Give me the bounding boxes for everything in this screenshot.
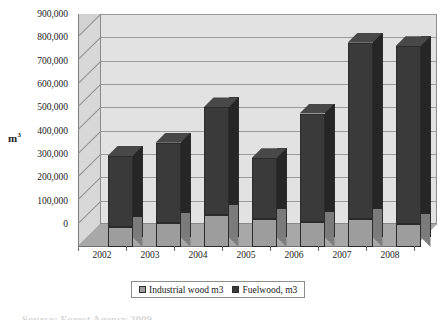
y-axis-tick-label: 300,000 bbox=[0, 149, 74, 159]
bar-segment-side-face bbox=[133, 146, 143, 217]
y-axis-tick-label: 400,000 bbox=[0, 126, 74, 136]
y-axis-tick-label: 0 bbox=[0, 219, 74, 229]
x-axis-tick-label: 2007 bbox=[318, 249, 366, 261]
bar-column[interactable] bbox=[252, 158, 277, 247]
legend-label: Fuelwood, m3 bbox=[242, 285, 297, 295]
bar-column[interactable] bbox=[300, 114, 325, 247]
bar-segment-side-face bbox=[421, 214, 431, 237]
x-axis-tick-label: 2004 bbox=[174, 249, 222, 261]
bar-segment-side-face bbox=[373, 33, 383, 209]
y-axis-tick-label: 500,000 bbox=[0, 102, 74, 112]
y-axis-tick-label: 800,000 bbox=[0, 32, 74, 42]
legend-swatch-icon bbox=[139, 286, 146, 293]
bar-column[interactable] bbox=[396, 46, 421, 247]
y-axis-tick-label: 700,000 bbox=[0, 56, 74, 66]
bar-segment[interactable] bbox=[156, 223, 181, 247]
bar-segment[interactable] bbox=[252, 219, 277, 247]
gridline bbox=[101, 61, 437, 62]
chart-legend: Industrial wood m3Fuelwood, m3 bbox=[131, 281, 305, 298]
bar-segment[interactable] bbox=[108, 156, 133, 227]
bar-segment[interactable] bbox=[252, 158, 277, 219]
gridline bbox=[101, 37, 437, 38]
y-axis-tick-label: 100,000 bbox=[0, 196, 74, 206]
legend-label: Industrial wood m3 bbox=[149, 285, 223, 295]
y-axis-tick-labels: 900,000800,000700,000600,000500,000400,0… bbox=[0, 0, 74, 320]
plot-area bbox=[78, 14, 438, 260]
bar-segment-side-face bbox=[229, 97, 239, 204]
bar-segment-side-face bbox=[181, 133, 191, 213]
bar-segment[interactable] bbox=[348, 43, 373, 219]
bar-segment-side-face bbox=[277, 209, 287, 237]
y-axis-tick-label: 600,000 bbox=[0, 79, 74, 89]
cut-off-caption: Source: Forest Agency 2009 bbox=[22, 313, 322, 320]
legend-entry[interactable]: Fuelwood, m3 bbox=[232, 285, 297, 295]
bar-segment-side-face bbox=[277, 148, 287, 209]
bar-segment[interactable] bbox=[156, 143, 181, 223]
bar-column[interactable] bbox=[204, 107, 229, 247]
x-axis-tick-label: 2006 bbox=[270, 249, 318, 261]
legend-swatch-icon bbox=[232, 286, 239, 293]
bar-segment[interactable] bbox=[348, 219, 373, 247]
x-axis-tick-labels: 2002200320042005200620072008 bbox=[78, 249, 438, 265]
legend-entry[interactable]: Industrial wood m3 bbox=[139, 285, 223, 295]
bar-segment-side-face bbox=[373, 209, 383, 237]
bar-segment[interactable] bbox=[300, 114, 325, 222]
bar-segment[interactable] bbox=[396, 46, 421, 224]
bar-segment[interactable] bbox=[108, 227, 133, 247]
x-axis-tick-label: 2002 bbox=[78, 249, 126, 261]
y-axis-tick-label: 200,000 bbox=[0, 172, 74, 182]
bar-segment-side-face bbox=[181, 213, 191, 237]
bar-segment-side-face bbox=[325, 212, 335, 237]
bar-column[interactable] bbox=[108, 156, 133, 247]
gridline bbox=[101, 107, 437, 108]
bar-column[interactable] bbox=[156, 143, 181, 247]
bar-segment-side-face bbox=[229, 205, 239, 237]
bar-segment-side-face bbox=[421, 36, 431, 214]
y-axis-tick-label: 900,000 bbox=[0, 9, 74, 19]
bar-base-wedge bbox=[421, 237, 431, 247]
gridline bbox=[101, 14, 437, 15]
bar-segment-side-face bbox=[133, 217, 143, 237]
gridline bbox=[101, 84, 437, 85]
x-axis-tick-label: 2008 bbox=[366, 249, 414, 261]
chart-container: m3 900,000800,000700,000600,000500,00040… bbox=[0, 0, 441, 320]
gridline bbox=[101, 131, 437, 132]
x-axis-tick-label: 2005 bbox=[222, 249, 270, 261]
bar-segment[interactable] bbox=[396, 224, 421, 247]
bar-column[interactable] bbox=[348, 43, 373, 247]
bar-segment[interactable] bbox=[204, 107, 229, 214]
x-axis-tick-label: 2003 bbox=[126, 249, 174, 261]
bar-segment[interactable] bbox=[300, 222, 325, 247]
bar-segment[interactable] bbox=[204, 215, 229, 247]
bar-segment-side-face bbox=[325, 104, 335, 212]
